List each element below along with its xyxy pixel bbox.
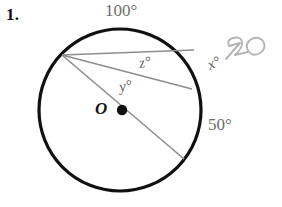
angle-z-label: z°	[138, 54, 152, 71]
circle-geometry-figure	[0, 0, 282, 207]
center-label-o: O	[95, 100, 107, 117]
center-point-dot	[117, 105, 127, 115]
handwritten-30-annotation	[222, 33, 268, 63]
arc-measure-bottom-right-label: 50°	[208, 116, 232, 133]
worksheet-problem-page: 1. 100° x° z° y° O 50°	[0, 0, 282, 207]
angle-y-label: y°	[118, 78, 133, 95]
arc-measure-top-label: 100°	[105, 2, 137, 19]
chord-upper	[62, 50, 194, 55]
